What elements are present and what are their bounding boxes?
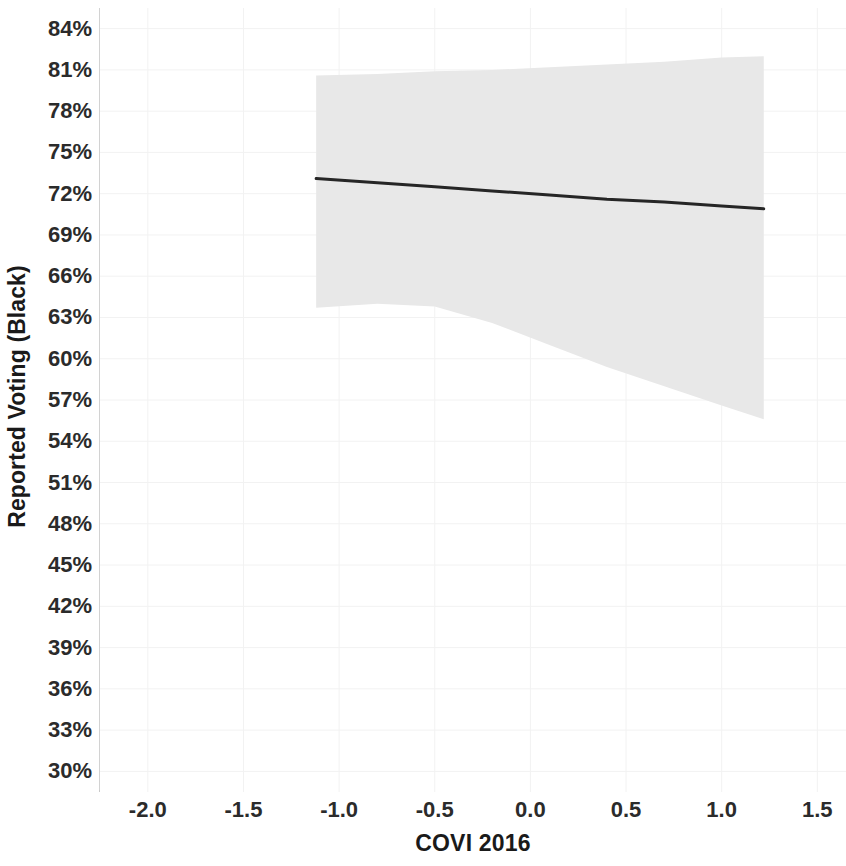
x-tick-label: -1.5 [203,797,283,823]
x-tick-label: 0.0 [490,797,570,823]
x-tick-label: -2.0 [108,797,188,823]
y-tick-label: 45% [32,552,92,578]
y-tick-label: 54% [32,428,92,454]
plot-area [100,8,846,792]
y-axis-tick-labels: 30%33%36%39%42%45%48%51%54%57%60%63%66%6… [30,0,92,866]
y-tick-label: 30% [32,758,92,784]
x-tick-label: 0.5 [586,797,666,823]
y-tick-label: 48% [32,511,92,537]
y-tick-label: 60% [32,346,92,372]
confidence-band-path [316,56,764,419]
y-tick-label: 39% [32,635,92,661]
y-tick-label: 69% [32,222,92,248]
y-tick-label: 51% [32,470,92,496]
y-tick-label: 84% [32,16,92,42]
y-tick-label: 42% [32,593,92,619]
x-axis-tick-labels: -2.0-1.5-1.0-0.50.00.51.01.5 [0,797,846,831]
y-tick-label: 66% [32,263,92,289]
y-tick-label: 78% [32,98,92,124]
y-axis-title-text: Reported Voting (Black) [4,265,31,528]
y-tick-label: 72% [32,181,92,207]
x-tick-label: 1.0 [682,797,762,823]
y-tick-label: 81% [32,57,92,83]
x-tick-label: -0.5 [395,797,475,823]
y-tick-label: 63% [32,304,92,330]
y-tick-label: 57% [32,387,92,413]
y-axis-title: Reported Voting (Black) [0,0,34,792]
chart-figure: Reported Voting (Black) 30%33%36%39%42%4… [0,0,846,866]
x-tick-label: 1.5 [777,797,846,823]
x-axis-title: COVI 2016 [100,830,846,857]
y-tick-label: 36% [32,676,92,702]
x-tick-label: -1.0 [299,797,379,823]
y-tick-label: 75% [32,139,92,165]
plot-canvas [100,8,846,792]
y-tick-label: 33% [32,717,92,743]
confidence-interval-band [316,56,764,419]
